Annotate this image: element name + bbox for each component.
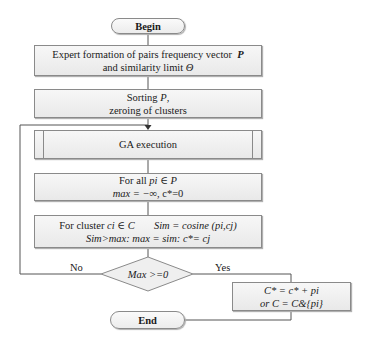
sorting-box: Sorting P, zeroing of clusters [34,89,262,118]
edge-update-end [184,311,291,320]
for-cluster-expr: ci ∈ C [107,220,135,231]
for-cluster-line-1: For cluster ci ∈ C Sim = cosine (pi,cj) [59,219,237,232]
ga-execution-box: GA execution [34,130,262,159]
for-cluster-line-2: Sim>max: max = sim: c*= cj [86,232,210,245]
end-terminator: End [110,311,185,329]
expert-line-2: and similarity limit Θ [103,61,194,74]
expert-line-2-text: and similarity limit [103,62,184,73]
sorting-line-2: zeroing of clusters [109,104,187,117]
expert-line-1: Expert formation of pairs frequency vect… [52,48,244,61]
expert-formation-box: Expert formation of pairs frequency vect… [34,45,262,76]
yes-label: Yes [215,262,230,274]
expert-line-1-text: Expert formation of pairs frequency vect… [52,49,232,60]
update-line-1: C* = c* + pi [264,284,319,297]
sorting-text: Sorting [127,92,158,103]
no-label: No [70,262,83,274]
for-all-line-2: max = −∞, c*=0 [113,187,184,200]
cstar-init: , c*=0 [157,188,183,199]
edge-yes [193,274,291,282]
update-cluster-box: C* = c* + pi or C = C&{pi} [232,282,351,311]
theta-symbol: Θ [186,62,194,73]
similarity-expr: Sim = cosine (pi,cj) [154,220,237,231]
ga-left-bar [43,131,44,158]
vector-p-symbol: P [237,49,243,60]
ga-label: GA execution [119,138,177,151]
for-all-line-1: For all pi ∈ P [119,174,177,187]
sorting-comma: , [167,92,170,103]
for-cluster-text: For cluster [59,220,104,231]
begin-terminator: Begin [111,18,185,34]
update-line-2: or C = C&{pi} [260,297,323,310]
decision-label: Max >=0 [110,265,186,283]
sorting-line-1: Sorting P, [127,91,170,104]
for-all-box: For all pi ∈ P max = −∞, c*=0 [34,173,262,201]
end-label: End [138,314,157,327]
ga-right-bar [252,131,253,158]
for-all-text: For all [119,175,147,186]
begin-label: Begin [135,20,161,33]
max-init-expr: max = −∞ [113,188,157,199]
for-all-expr: pi ∈ P [149,175,177,186]
for-cluster-box: For cluster ci ∈ C Sim = cosine (pi,cj) … [34,215,262,248]
